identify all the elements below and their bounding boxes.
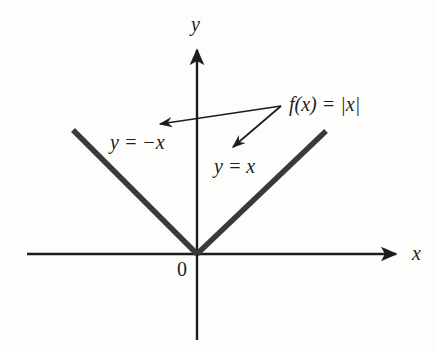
right-branch-label: y = x xyxy=(214,156,255,176)
origin-label: 0 xyxy=(177,259,187,279)
absolute-value-graph-figure: y x 0 f(x) = |x| y = −x y = x xyxy=(0,0,436,352)
left-branch-label: y = −x xyxy=(110,132,165,152)
x-axis-label: x xyxy=(412,243,421,263)
function-label: f(x) = |x| xyxy=(289,94,360,114)
y-axis-label: y xyxy=(191,14,200,34)
right-branch-curve xyxy=(197,131,326,254)
